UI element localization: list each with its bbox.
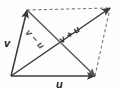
- label-vector-v: v: [4, 38, 10, 49]
- vector-diagram-canvas: [0, 0, 121, 90]
- label-vector-u: u: [56, 79, 63, 90]
- dashed-edge-u-copy: [27, 8, 110, 10]
- vector-diagram-figure: v u v − u v + u: [0, 0, 121, 90]
- dashed-edge-v-copy: [95, 8, 110, 76]
